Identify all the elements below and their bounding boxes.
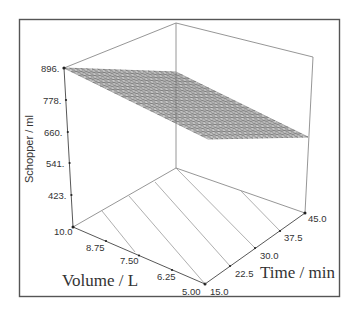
y-tick-label: 30.0: [260, 250, 279, 261]
x-tick-label: 7.50: [120, 255, 139, 266]
z-axis: 896. 778. 660. 541. 423. Schopper / ml: [23, 63, 73, 227]
x-tick-label: 6.25: [157, 271, 176, 282]
z-tick-label: 896.: [41, 63, 60, 74]
x-axis-label: Volume / L: [62, 271, 138, 290]
y-tick-label: 22.5: [235, 268, 254, 279]
surface-plot: 896. 778. 660. 541. 423. Schopper / ml 1…: [0, 0, 357, 312]
x-axis-volume: 10.0 8.75 7.50 6.25 5.00 Volume / L: [54, 226, 207, 298]
x-tick-label: 10.0: [54, 226, 73, 237]
z-tick-label: 660.: [44, 127, 63, 138]
z-tick-label: 541.: [46, 158, 65, 169]
x-tick-label: 5.00: [182, 286, 201, 297]
response-surface-mesh: [64, 68, 308, 139]
y-tick-label: 15.0: [210, 286, 229, 297]
y-tick-label: 37.5: [284, 232, 303, 243]
y-axis-time: 15.0 22.5 30.0 37.5 45.0 Time / min: [205, 212, 335, 298]
z-tick-label: 423.: [48, 190, 67, 201]
y-axis-label: Time / min: [260, 263, 335, 282]
floor-contour-lines: [102, 168, 280, 284]
z-tick-label: 778.: [43, 95, 62, 106]
y-tick-label: 45.0: [308, 213, 327, 224]
z-axis-label: Schopper / ml: [23, 115, 35, 183]
x-tick-label: 8.75: [86, 242, 105, 253]
